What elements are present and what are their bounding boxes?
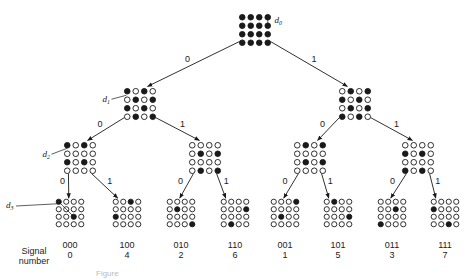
empty-point (215, 159, 221, 165)
empty-point (294, 207, 299, 212)
branch-label: 0 (320, 119, 325, 129)
empty-point (324, 199, 329, 204)
empty-point (73, 142, 79, 148)
empty-point (402, 159, 408, 165)
filled-point (356, 97, 362, 103)
leaf-110 (221, 199, 249, 227)
empty-point (124, 114, 130, 120)
empty-point (133, 88, 139, 94)
empty-point (386, 214, 391, 219)
filled-point (339, 97, 345, 103)
filled-point (141, 88, 147, 94)
distance-label-d0: d0 (275, 15, 283, 26)
signal-label-011: 0113 (377, 240, 407, 260)
empty-point (294, 151, 300, 157)
empty-point (332, 214, 337, 219)
branch-arrow (371, 118, 413, 141)
empty-point (294, 214, 299, 219)
empty-point (64, 151, 70, 157)
empty-point (206, 168, 212, 174)
empty-point (286, 207, 291, 212)
signal-number: 0 (55, 250, 85, 260)
empty-point (190, 199, 195, 204)
empty-point (136, 207, 141, 212)
empty-point (378, 214, 383, 219)
empty-point (229, 214, 234, 219)
empty-point (198, 142, 204, 148)
empty-point (79, 214, 84, 219)
empty-point (79, 207, 84, 212)
empty-point (229, 207, 234, 212)
empty-point (167, 222, 172, 227)
signal-number: 6 (220, 250, 250, 260)
filled-point (64, 142, 70, 148)
empty-point (64, 222, 69, 227)
filled-point (256, 23, 262, 29)
filled-point (133, 97, 139, 103)
signal-number: 4 (112, 250, 142, 260)
empty-point (386, 222, 391, 227)
empty-point (401, 207, 406, 212)
empty-point (190, 207, 195, 212)
signal-code: 011 (377, 240, 407, 250)
empty-point (81, 151, 87, 157)
filled-point (320, 159, 326, 165)
empty-point (311, 159, 317, 165)
empty-point (64, 168, 70, 174)
leaf-101 (324, 199, 352, 227)
empty-point (446, 214, 451, 219)
empty-point (439, 214, 444, 219)
subset-01 (189, 142, 220, 173)
empty-point (311, 142, 317, 148)
root-constellation (239, 14, 270, 45)
filled-point (239, 31, 245, 37)
empty-point (236, 222, 241, 227)
branch-label: 1 (224, 176, 229, 186)
empty-point (401, 214, 406, 219)
filled-point (175, 207, 180, 212)
empty-point (79, 199, 84, 204)
empty-point (221, 199, 226, 204)
empty-point (121, 207, 126, 212)
filled-point (393, 207, 398, 212)
signal-number: 2 (166, 250, 196, 260)
empty-point (271, 199, 276, 204)
empty-point (286, 199, 291, 204)
filled-point (332, 199, 337, 204)
empty-point (175, 199, 180, 204)
branch-arrow (148, 42, 240, 87)
empty-point (303, 168, 309, 174)
empty-point (339, 199, 344, 204)
empty-point (271, 214, 276, 219)
empty-point (236, 207, 241, 212)
signal-number: 1 (270, 250, 300, 260)
filled-point (347, 214, 352, 219)
empty-point (221, 222, 226, 227)
filled-point (256, 31, 262, 37)
filled-point (141, 105, 147, 111)
branch-label: 1 (435, 176, 440, 186)
signal-number: 5 (323, 250, 353, 260)
empty-point (347, 207, 352, 212)
empty-point (81, 168, 87, 174)
empty-point (439, 199, 444, 204)
empty-point (244, 199, 249, 204)
signal-code: 001 (270, 240, 300, 250)
empty-point (339, 222, 344, 227)
empty-point (121, 199, 126, 204)
empty-point (206, 159, 212, 165)
empty-point (56, 214, 61, 219)
empty-point (428, 142, 434, 148)
leaf-010 (167, 199, 195, 227)
empty-point (113, 199, 118, 204)
row-label-line1: Signal (14, 246, 54, 256)
filled-point (402, 151, 408, 157)
filled-point (215, 168, 221, 174)
filled-point (402, 168, 408, 174)
filled-point (419, 151, 425, 157)
empty-point (386, 207, 391, 212)
empty-point (378, 207, 383, 212)
empty-point (294, 222, 299, 227)
empty-point (64, 199, 69, 204)
branch-label: 1 (180, 119, 185, 129)
